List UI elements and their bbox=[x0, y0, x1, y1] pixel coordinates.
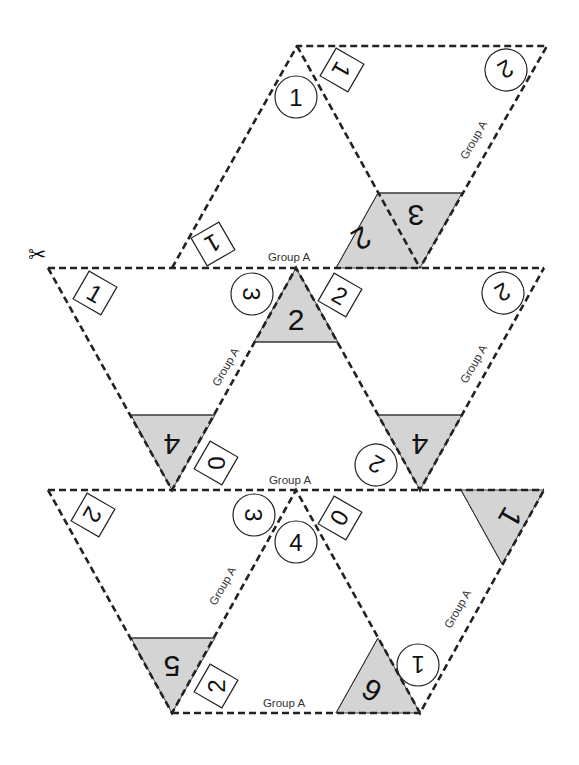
box-number: 2 bbox=[203, 679, 230, 692]
box-marker: 1 bbox=[73, 271, 117, 315]
shaded-region bbox=[461, 490, 544, 564]
shaded-number: 4 bbox=[412, 428, 429, 461]
group-label: Group A bbox=[263, 697, 306, 709]
box-marker: 0 bbox=[318, 496, 362, 540]
row-bottom: 3 4 1 2 0 2 1 5 6 Gr bbox=[48, 490, 544, 713]
shaded-number: 2 bbox=[288, 303, 305, 336]
scissors-icon: ✂ bbox=[28, 242, 46, 267]
box-marker: 2 bbox=[318, 273, 362, 317]
box-number: 0 bbox=[203, 456, 230, 469]
circle-marker: 2 bbox=[477, 41, 534, 98]
group-label: Group A bbox=[458, 342, 490, 385]
group-label: Group A bbox=[442, 587, 474, 630]
flexagon-template: 1 2 1 1 2 3 Group A Group A bbox=[0, 0, 579, 765]
box-marker: 2 bbox=[194, 664, 238, 708]
group-label: Group A bbox=[269, 474, 312, 486]
shaded-number: 4 bbox=[164, 428, 181, 461]
box-marker: 0 bbox=[194, 441, 238, 485]
circle-marker: 2 bbox=[474, 264, 531, 321]
circle-number: 1 bbox=[411, 651, 424, 678]
group-label: Group A bbox=[210, 345, 242, 388]
circle-marker: 1 bbox=[397, 644, 439, 686]
circle-marker: 3 bbox=[231, 273, 273, 315]
circle-number: 4 bbox=[289, 529, 302, 556]
circle-number: 1 bbox=[289, 84, 302, 111]
row-middle: ✂ 3 2 2 1 2 0 2 4 4 bbox=[28, 242, 544, 494]
circle-marker: 3 bbox=[233, 494, 275, 536]
group-label: Group A bbox=[268, 251, 311, 263]
shaded-number: 3 bbox=[408, 199, 425, 232]
circle-marker: 1 bbox=[275, 76, 317, 118]
box-marker: 2 bbox=[71, 493, 115, 537]
box-marker: 1 bbox=[320, 48, 364, 92]
circle-number: 3 bbox=[240, 508, 267, 521]
box-marker: 1 bbox=[191, 222, 235, 266]
circle-number: 3 bbox=[238, 287, 265, 300]
circle-marker: 4 bbox=[275, 521, 317, 563]
shaded-number: 5 bbox=[164, 650, 181, 683]
group-label: Group A bbox=[207, 564, 239, 607]
row-top: 1 2 1 1 2 3 Group A Group A bbox=[172, 41, 547, 268]
